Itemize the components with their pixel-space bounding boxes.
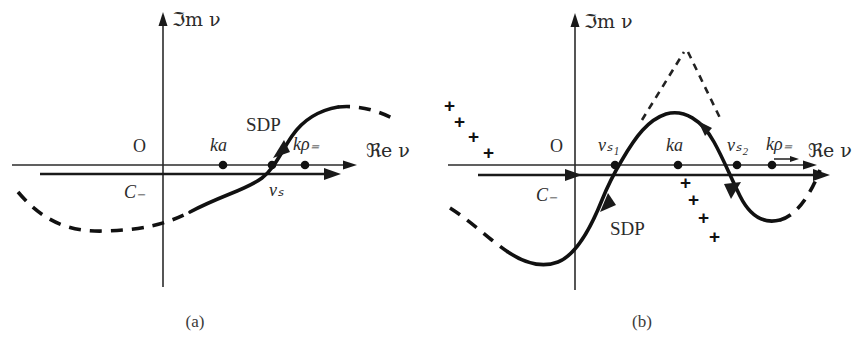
point-nu-s2-b — [733, 161, 742, 170]
point-ka-b — [674, 161, 683, 170]
plus-icon: + — [698, 207, 709, 228]
panel-a-plot: ℑm ν ℜe ν O C₋ ka νₛ kρ₌ SDP (a) — [0, 0, 430, 345]
sdp-curve-b-left-dashed — [450, 208, 508, 252]
plus-icon: + — [709, 226, 720, 247]
y-axis-label-b: ℑm ν — [584, 10, 633, 32]
krho-small-arrow-b — [774, 156, 799, 162]
label-ka-b: ka — [666, 135, 683, 155]
point-krho-b — [768, 161, 777, 170]
plus-icon: + — [468, 126, 479, 147]
panel-caption-a: (a) — [186, 312, 205, 331]
x-axis-b — [448, 161, 817, 170]
label-nu-s2-b: νₛ₂ — [727, 135, 748, 155]
dashed-peak-b — [642, 52, 684, 120]
label-nu-s-a: νₛ — [269, 180, 284, 200]
contour-label-b: C₋ — [536, 185, 558, 205]
y-axis-label-a: ℑm ν — [172, 8, 221, 30]
contour-c-minus-a — [40, 168, 341, 180]
point-ka-a — [219, 161, 228, 170]
plus-group-left-b: + + + + — [444, 95, 494, 163]
plus-icon: + — [483, 142, 494, 163]
origin-label-b: O — [550, 136, 563, 156]
label-nu-s1-b: νₛ₁ — [598, 135, 619, 155]
sdp-curve-a-right-dashed — [338, 107, 398, 121]
y-axis-a — [159, 12, 168, 287]
point-krho-a — [301, 161, 310, 170]
plus-group-right-b: + + + + — [680, 172, 720, 247]
dashed-peak-b-right — [688, 52, 720, 118]
panel-b: + + + + + + + + ℑm ν ℜe ν O C₋ νₛ₁ ka νₛ… — [430, 0, 859, 345]
x-axis-label-a: ℜe ν — [366, 139, 410, 161]
sdp-label-b: SDP — [610, 218, 645, 239]
sdp-curve-a-left-dashed — [18, 192, 190, 231]
panel-b-plot: + + + + + + + + ℑm ν ℜe ν O C₋ νₛ₁ ka νₛ… — [430, 0, 859, 345]
label-krho-b: kρ₌ — [766, 134, 793, 154]
panel-caption-b: (b) — [632, 312, 652, 331]
plus-icon: + — [454, 111, 465, 132]
x-axis-label-b: ℜe ν — [808, 139, 852, 161]
label-ka-a: ka — [210, 135, 227, 155]
point-nu-s-a — [268, 161, 277, 170]
origin-label-a: O — [133, 136, 146, 156]
point-nu-s1-b — [611, 161, 620, 170]
figure-root: ℑm ν ℜe ν O C₋ ka νₛ kρ₌ SDP (a) — [0, 0, 859, 345]
sdp-label-a: SDP — [246, 114, 281, 135]
label-krho-a: kρ₌ — [293, 134, 320, 154]
panel-a: ℑm ν ℜe ν O C₋ ka νₛ kρ₌ SDP (a) — [0, 0, 430, 345]
contour-label-a: C₋ — [124, 182, 146, 202]
contour-c-minus-b — [478, 169, 830, 181]
